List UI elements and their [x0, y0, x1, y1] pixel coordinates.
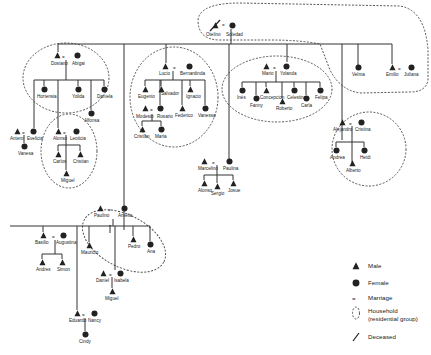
- person-label: Daniela: [97, 94, 113, 99]
- male-icon: [77, 151, 83, 157]
- male-icon: [214, 183, 220, 189]
- female-icon: [21, 143, 27, 149]
- person-label: Bernardinda: [180, 71, 205, 76]
- male-icon: [63, 170, 69, 176]
- male-icon: [97, 205, 103, 211]
- person-label: Miguel: [61, 178, 75, 183]
- person-label: Cindy: [79, 339, 91, 344]
- male-legend-icon: [353, 262, 360, 269]
- male-icon: [263, 87, 269, 93]
- person-label: Evelicia: [27, 136, 43, 141]
- male-icon: [100, 270, 106, 276]
- person-label: Nancy: [88, 318, 102, 323]
- person-label: Fanny: [250, 103, 263, 108]
- female-icon: [117, 270, 123, 276]
- person-label: Female: [368, 279, 389, 286]
- person-label: Antero: [10, 136, 24, 141]
- person-label: Felipa: [315, 95, 328, 100]
- person-label: Inés: [237, 95, 246, 100]
- person-label: Isabela: [114, 278, 129, 283]
- person-label: Emilio: [386, 72, 399, 77]
- female-legend-icon: [353, 280, 360, 287]
- person-label: Concepcion: [260, 95, 285, 100]
- person-label: Eduardo: [69, 318, 87, 323]
- female-icon: [317, 87, 323, 93]
- male-icon: [339, 119, 345, 125]
- person-label: Cristina: [355, 127, 371, 132]
- male-icon: [142, 105, 148, 111]
- household-mario: [222, 56, 332, 122]
- person-label: Carlos: [53, 159, 67, 164]
- female-icon: [239, 87, 245, 93]
- svg-text:=: =: [62, 55, 65, 60]
- deceased-legend-icon: [353, 333, 359, 341]
- svg-text:=: =: [349, 122, 352, 127]
- person-label: Carla: [301, 103, 312, 108]
- person-label: Mario: [262, 71, 274, 76]
- male-icon: [201, 158, 207, 164]
- person-label: Yolida: [72, 94, 85, 99]
- svg-text:=: =: [273, 66, 276, 71]
- people: = Otelino Soledad Dosiano = Abigai Horte…: [10, 20, 419, 344]
- person-label: Mauricio: [81, 250, 99, 255]
- person-label: Cristian: [134, 134, 150, 139]
- person-label: Otelino: [206, 32, 221, 37]
- person-label: Eugenio: [138, 94, 155, 99]
- female-icon: [82, 331, 88, 337]
- person-label: Marriage: [368, 294, 393, 301]
- household-legend-icon: [353, 307, 360, 319]
- person-label: Federico: [175, 113, 193, 118]
- female-icon: [91, 310, 97, 316]
- svg-text:=: =: [398, 67, 401, 72]
- person-label: Ana: [147, 249, 156, 254]
- person-label: Lucio: [159, 71, 170, 76]
- female-icon: [333, 147, 339, 153]
- person-label: Male: [368, 262, 382, 269]
- male-icon: [130, 236, 136, 242]
- person-label: Josue: [228, 188, 241, 193]
- person-label: Modesto: [136, 114, 154, 119]
- female-icon: [75, 86, 81, 92]
- svg-text:=: =: [63, 131, 66, 136]
- person-label: Heidi: [360, 155, 370, 160]
- svg-text:=: =: [82, 313, 85, 318]
- kinship-diagram: = Otelino Soledad Dosiano = Abigai Horte…: [0, 0, 431, 355]
- male-icon: [109, 288, 115, 294]
- household-founders: [198, 3, 428, 93]
- person-label: Soledad: [226, 32, 243, 37]
- svg-text:=: =: [222, 23, 225, 28]
- deceased-slash-icon: [210, 20, 220, 31]
- female-icon: [202, 105, 208, 111]
- person-label: Simon: [57, 267, 70, 272]
- male-icon: [349, 160, 355, 166]
- male-icon: [201, 180, 207, 186]
- person-label: Paulino: [94, 213, 110, 218]
- person-label: Ignacio: [186, 94, 201, 99]
- person-label: Salvador: [161, 91, 180, 96]
- person-label: Andres: [36, 267, 51, 272]
- male-icon: [179, 105, 185, 111]
- male-icon: [162, 63, 168, 69]
- legend: Male Female = Marriage Household (reside…: [352, 262, 418, 341]
- female-icon: [74, 52, 80, 58]
- person-label: Leoticia: [70, 136, 86, 141]
- person-label: Cristian: [73, 159, 89, 164]
- person-label: Daniel: [96, 278, 109, 283]
- person-label: Alfonsa: [84, 118, 100, 123]
- female-icon: [147, 241, 153, 247]
- female-icon: [73, 128, 79, 134]
- person-label: Miguel: [105, 296, 119, 301]
- person-label: Yolanda: [280, 71, 297, 76]
- person-label: Vanessa: [198, 113, 216, 118]
- female-icon: [283, 63, 289, 69]
- female-icon: [355, 64, 361, 70]
- svg-text:=: =: [109, 273, 112, 278]
- person-label: Augustina: [56, 240, 77, 245]
- person-label: Rosario: [157, 114, 173, 119]
- male-icon: [389, 64, 395, 70]
- person-label: Roberto: [276, 106, 293, 111]
- household-outlines: [23, 3, 428, 285]
- person-label: (residential group): [368, 315, 418, 322]
- female-icon: [30, 128, 36, 134]
- male-icon: [230, 180, 236, 186]
